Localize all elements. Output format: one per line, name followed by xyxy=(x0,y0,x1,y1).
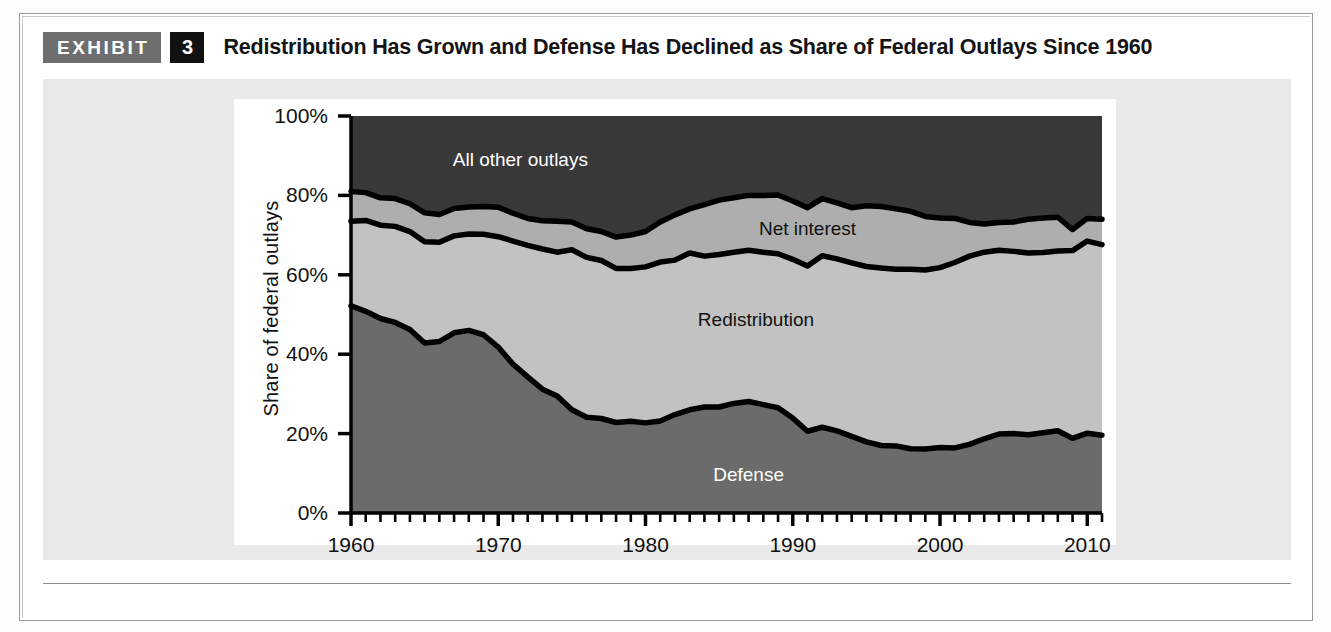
x-tick-label: 2010 xyxy=(1064,533,1111,557)
y-axis-ticks: 0%20%40%60%80%100% xyxy=(244,99,328,545)
y-tick-label: 20% xyxy=(244,422,328,446)
footer-divider xyxy=(43,583,1291,584)
y-tick-label: 80% xyxy=(244,183,328,207)
chart-plot-svg xyxy=(234,99,1116,545)
x-tick-label: 1990 xyxy=(769,533,816,557)
y-tick-label: 60% xyxy=(244,263,328,287)
series-label-redistribution: Redistribution xyxy=(698,309,814,331)
exhibit-page: EXHIBIT 3 Redistribution Has Grown and D… xyxy=(0,0,1331,632)
x-tick-label: 2000 xyxy=(917,533,964,557)
exhibit-number-badge: 3 xyxy=(170,32,204,63)
series-label-defense: Defense xyxy=(713,464,784,486)
y-tick-label: 40% xyxy=(244,342,328,366)
page-title: Redistribution Has Grown and Defense Has… xyxy=(223,35,1152,60)
series-label-net-interest: Net interest xyxy=(759,218,856,240)
exhibit-badge: EXHIBIT xyxy=(43,32,161,63)
chart-card: Share of federal outlays 0%20%40%60%80%1… xyxy=(234,99,1116,545)
y-tick-label: 0% xyxy=(244,501,328,525)
y-tick-label: 100% xyxy=(244,104,328,128)
exhibit-header: EXHIBIT 3 Redistribution Has Grown and D… xyxy=(43,31,1152,63)
x-tick-label: 1980 xyxy=(622,533,669,557)
x-tick-label: 1970 xyxy=(475,533,522,557)
stacked-area-chart: Share of federal outlays 0%20%40%60%80%1… xyxy=(234,99,1116,545)
series-label-all-other-outlays: All other outlays xyxy=(453,149,588,171)
x-tick-label: 1960 xyxy=(328,533,375,557)
chart-panel: Share of federal outlays 0%20%40%60%80%1… xyxy=(43,79,1291,560)
